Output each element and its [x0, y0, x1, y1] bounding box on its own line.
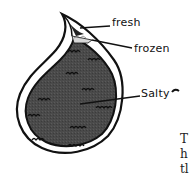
fresh-label: fresh [112, 17, 141, 28]
salty-label: Salty [141, 88, 170, 99]
text-fragment: h [180, 147, 189, 162]
text-fragment: T [180, 132, 189, 147]
arrow-mark [172, 90, 179, 92]
fresh-leader [80, 26, 110, 28]
cropped-body-text: T h tl [180, 132, 189, 177]
diagram-canvas: fresh frozen Salty T h tl [0, 0, 193, 182]
frozen-label: frozen [134, 43, 170, 54]
text-fragment: tl [180, 162, 189, 177]
